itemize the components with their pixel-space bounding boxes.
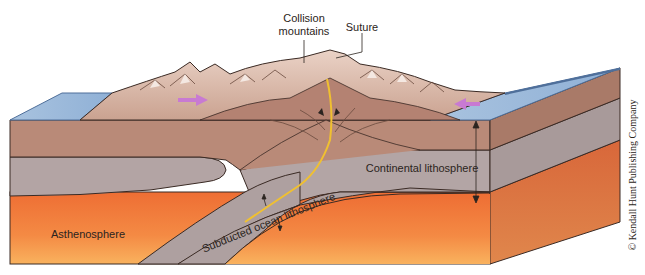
label-suture: Suture [346,21,378,33]
label-collision-mountains-line1: Collision [283,12,325,24]
copyright-credit: © Kendall Hunt Publishing Company [627,100,638,251]
label-collision-mountains-line2: mountains [279,25,330,37]
diagram-canvas: Collision mountains Suture Continental l… [0,0,645,275]
label-continental-lithosphere: Continental lithosphere [366,162,479,174]
label-asthenosphere: Asthenosphere [51,228,125,240]
collision-diagram: Collision mountains Suture Continental l… [0,0,645,275]
